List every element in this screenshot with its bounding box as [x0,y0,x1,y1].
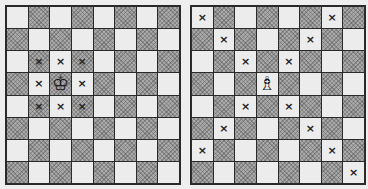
board-square [279,118,300,139]
board-square: × [192,140,213,161]
board-square [192,162,213,183]
board-square [300,140,321,161]
board-square [115,73,136,94]
board-square [322,29,343,50]
board-square [115,118,136,139]
board-square [94,51,115,72]
board-square [257,7,278,28]
board-square: × [322,7,343,28]
board-square [115,7,136,28]
board-square [115,162,136,183]
board-square [158,96,179,117]
move-mark-icon: × [306,34,315,45]
board-square [137,7,158,28]
board-square [235,29,256,50]
board-square [94,73,115,94]
board-square [192,29,213,50]
move-mark-icon: × [78,78,87,89]
board-square [115,51,136,72]
board-square: × [72,96,93,117]
board-square [192,73,213,94]
move-mark-icon: × [284,56,293,67]
board-square [50,140,71,161]
board-square [94,118,115,139]
board-square [7,29,28,50]
board-square: ♔ [50,73,71,94]
board-square [300,51,321,72]
board-square [137,96,158,117]
board-square [279,162,300,183]
board-square [257,29,278,50]
board-square [343,96,364,117]
move-mark-icon: × [198,12,207,23]
board-square [300,73,321,94]
board-square [137,118,158,139]
board-square [235,73,256,94]
board-square: × [72,73,93,94]
board-square [50,162,71,183]
board-square [279,29,300,50]
board-square [235,118,256,139]
board-square [343,73,364,94]
board-square: × [322,140,343,161]
board-square [7,73,28,94]
board-square [29,7,50,28]
board-square [300,162,321,183]
board-square [94,96,115,117]
board-square [72,162,93,183]
board-square [343,140,364,161]
board-square: × [235,51,256,72]
board-square: × [300,29,321,50]
board-square [343,51,364,72]
board-square [322,96,343,117]
board-square [72,29,93,50]
board-square [343,118,364,139]
board-square [29,162,50,183]
board-square [94,162,115,183]
board-square [214,51,235,72]
board-square [50,29,71,50]
board-square: × [192,7,213,28]
board-square [322,51,343,72]
move-mark-icon: × [34,78,43,89]
board-square [300,7,321,28]
bishop-icon: ♗ [259,74,276,93]
board-square [115,140,136,161]
board-square [158,73,179,94]
board-square: × [50,96,71,117]
move-mark-icon: × [34,56,43,67]
board-square [235,7,256,28]
board-square [7,118,28,139]
board-square [235,140,256,161]
board-square: ♗ [257,73,278,94]
board-square: × [300,118,321,139]
board-square [137,73,158,94]
move-mark-icon: × [34,101,43,112]
board-square: × [72,51,93,72]
board-square [257,118,278,139]
board-square [115,29,136,50]
board-square: × [214,29,235,50]
board-square [322,73,343,94]
move-mark-icon: × [241,56,250,67]
board-square [7,162,28,183]
board-square [343,29,364,50]
king-icon: ♔ [52,74,69,93]
board-square [7,51,28,72]
board-square [257,96,278,117]
board-square [214,7,235,28]
board-square [72,118,93,139]
board-square [300,96,321,117]
board-square [7,140,28,161]
move-mark-icon: × [219,34,228,45]
board-square [7,7,28,28]
board-square [257,162,278,183]
board-square [158,7,179,28]
board-square [72,7,93,28]
board-square [214,140,235,161]
board-square [322,118,343,139]
move-mark-icon: × [56,56,65,67]
board-square: × [29,96,50,117]
move-mark-icon: × [56,101,65,112]
board-square [158,162,179,183]
